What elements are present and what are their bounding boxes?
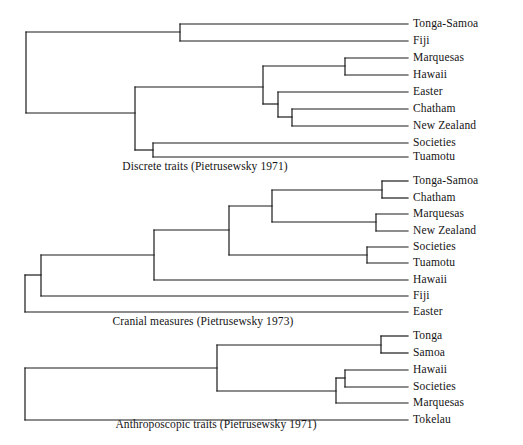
- dendrogram-line-layer: [25, 24, 408, 420]
- leaf-label-hawaii: Hawaii: [413, 364, 447, 376]
- leaf-label-tonga-samoa: Tonga-Samoa: [413, 175, 478, 187]
- leaf-label-tuamotu: Tuamotu: [413, 151, 455, 163]
- leaf-label-fiji: Fiji: [413, 290, 430, 302]
- panel-caption-discrete-traits: Discrete traits (Pietrusewsky 1971): [122, 160, 287, 172]
- leaf-label-marquesas: Marquesas: [413, 208, 464, 220]
- leaf-label-easter: Easter: [413, 306, 443, 318]
- leaf-label-tuamotu: Tuamotu: [413, 257, 455, 269]
- leaf-label-societies: Societies: [413, 137, 456, 149]
- leaf-label-new-zealand: New Zealand: [413, 120, 476, 132]
- leaf-label-hawaii: Hawaii: [413, 69, 447, 81]
- leaf-label-fiji: Fiji: [413, 35, 430, 47]
- panel-caption-cranial-measures: Cranial measures (Pietrusewsky 1973): [113, 315, 294, 327]
- panel-caption-anthroposcopic-traits: Anthroposcopic traits (Pietrusewsky 1971…: [115, 418, 316, 430]
- leaf-label-tonga: Tonga: [413, 330, 442, 342]
- leaf-label-marquesas: Marquesas: [413, 52, 464, 64]
- leaf-label-societies: Societies: [413, 381, 456, 393]
- leaf-label-chatham: Chatham: [413, 103, 456, 115]
- leaf-label-hawaii: Hawaii: [413, 274, 447, 286]
- leaf-label-societies: Societies: [413, 241, 456, 253]
- figure-page: Tonga-SamoaFijiMarquesasHawaiiEasterChat…: [0, 0, 523, 445]
- leaf-label-tonga-samoa: Tonga-Samoa: [413, 18, 478, 30]
- leaf-label-chatham: Chatham: [413, 192, 456, 204]
- dendrogram-canvas: [0, 0, 523, 445]
- leaf-label-new-zealand: New Zealand: [413, 225, 476, 237]
- leaf-label-easter: Easter: [413, 86, 443, 98]
- leaf-label-tokelau: Tokelau: [413, 414, 451, 426]
- leaf-label-samoa: Samoa: [413, 347, 445, 359]
- leaf-label-marquesas: Marquesas: [413, 397, 464, 409]
